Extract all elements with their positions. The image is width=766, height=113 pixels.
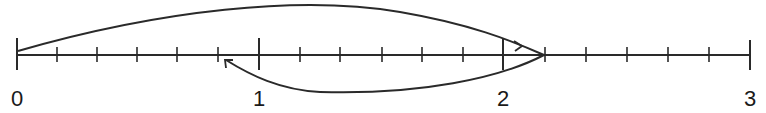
label-one: 1 — [253, 88, 265, 110]
forward-arrowhead-icon — [514, 41, 522, 51]
label-three: 3 — [744, 88, 756, 110]
number-line-diagram — [0, 0, 766, 113]
label-two: 2 — [497, 88, 509, 110]
label-zero: 0 — [11, 88, 23, 110]
